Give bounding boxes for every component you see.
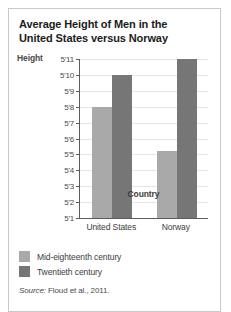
y-tick-mark: [76, 154, 79, 155]
legend-label: Twentieth century: [37, 267, 102, 277]
y-tick-label: 5'7: [64, 118, 74, 127]
y-tick-label: 5'4: [64, 166, 74, 175]
bar-united-states-series-1: [92, 107, 112, 218]
y-axis-label: Height: [17, 53, 43, 63]
legend-label: Mid-eighteenth century: [37, 252, 121, 262]
y-tick-mark: [76, 139, 79, 140]
y-tick-label: 5'8: [64, 102, 74, 111]
y-tick-label: 5'9: [64, 86, 74, 95]
source-text: Floud et al., 2011.: [46, 286, 110, 295]
x-tick-label: Norway: [131, 222, 221, 232]
y-tick-mark: [76, 202, 79, 203]
y-tick-label: 5'3: [64, 182, 74, 191]
y-tick-label: 5'11: [61, 55, 74, 64]
legend-swatch: [19, 251, 30, 262]
chart-title-line-2: United States versus Norway: [19, 32, 168, 44]
y-tick-mark: [76, 59, 79, 60]
chart-title-line-1: Average Height of Men in the: [19, 18, 167, 30]
chart-figure: Average Height of Men in the United Stat…: [8, 8, 221, 312]
y-tick-mark: [76, 170, 79, 171]
y-tick-mark: [76, 123, 79, 124]
y-tick-label: 5'2: [64, 198, 74, 207]
source-prefix: Source:: [19, 286, 46, 295]
legend-item: Mid-eighteenth century: [19, 249, 121, 264]
y-tick-mark: [76, 186, 79, 187]
y-tick-label: 5'10: [60, 70, 74, 79]
y-tick-label: 5'6: [64, 134, 74, 143]
y-tick-mark: [76, 91, 79, 92]
legend-swatch: [19, 266, 30, 277]
y-tick-mark: [76, 107, 79, 108]
source-note: Source: Floud et al., 2011.: [19, 286, 110, 295]
y-tick-mark: [76, 218, 79, 219]
chart-legend: Mid-eighteenth centuryTwentieth century: [19, 249, 121, 279]
legend-item: Twentieth century: [19, 264, 121, 279]
chart-title: Average Height of Men in the United Stat…: [19, 18, 209, 45]
bar-norway-series-1: [157, 151, 177, 218]
y-tick-label: 5'5: [64, 150, 74, 159]
y-tick-mark: [76, 75, 79, 76]
x-axis-label: Country: [79, 189, 208, 199]
